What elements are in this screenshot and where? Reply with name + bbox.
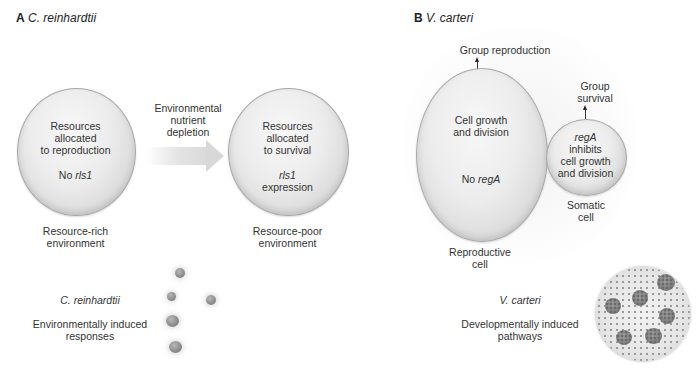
c-reinhardtii-cell-icon xyxy=(166,315,179,327)
group-reproduction-label: Group reproduction xyxy=(445,44,565,56)
gene-name: rls1 xyxy=(75,169,92,181)
panel-a-title: A C. reinhardtii xyxy=(16,11,96,25)
resource-poor-caption: Resource-poor environment xyxy=(228,225,347,249)
resource-rich-cell-text: Resources allocated to reproduction No r… xyxy=(17,120,134,181)
somatic-cell-caption: Somatic cell xyxy=(551,199,621,223)
c-reinhardtii-label: C. reinhardtii xyxy=(30,294,150,306)
resource-rich-caption: Resource-rich environment xyxy=(17,225,134,249)
nutrient-depletion-arrow-head-icon xyxy=(206,140,224,172)
gonidium-icon xyxy=(605,298,621,314)
developmental-pathway-label: Developmentally induced pathways xyxy=(455,318,585,342)
panel-b-title: B V. carteri xyxy=(414,11,473,25)
group-survival-label: Group survival xyxy=(560,80,630,104)
c-reinhardtii-cell-icon xyxy=(175,268,185,278)
somatic-cell-text: regA inhibits cell growth and division xyxy=(546,131,625,179)
panel-a-species: C. reinhardtii xyxy=(28,11,96,25)
arrow-line xyxy=(585,109,586,119)
environmental-response-label: Environmentally induced responses xyxy=(22,318,158,342)
gonidium-icon xyxy=(632,290,648,306)
volvox-colony-icon xyxy=(596,267,690,361)
gene-name: regA xyxy=(574,131,596,143)
gene-name: regA xyxy=(478,173,500,185)
gonidium-icon xyxy=(645,328,662,344)
arrow-label: Environmental nutrient depletion xyxy=(138,102,238,138)
cell-text-line: allocated xyxy=(17,132,134,144)
nutrient-depletion-arrow-body xyxy=(146,147,206,165)
gonidium-icon xyxy=(659,308,675,324)
reproductive-cell-caption: Reproductive cell xyxy=(430,246,530,270)
v-carteri-label: V. carteri xyxy=(470,294,570,306)
gonidium-icon xyxy=(616,330,632,345)
cell-text-line: Resources xyxy=(17,120,134,132)
gonidium-icon xyxy=(657,274,675,291)
c-reinhardtii-cell-icon xyxy=(206,295,216,305)
reproductive-cell-text: Cell growth and division No regA xyxy=(416,114,546,185)
gene-status: No rls1 xyxy=(17,169,134,181)
panel-a-letter: A xyxy=(16,11,25,25)
c-reinhardtii-cell-icon xyxy=(167,292,176,301)
panel-b-letter: B xyxy=(414,11,423,25)
c-reinhardtii-cell-icon xyxy=(169,341,182,353)
gene-name: rls1 xyxy=(279,169,296,181)
panel-b-species: V. carteri xyxy=(426,11,473,25)
cell-text-line: to reproduction xyxy=(17,144,134,156)
resource-poor-cell-text: Resources allocated to survival rls1 exp… xyxy=(228,120,347,193)
